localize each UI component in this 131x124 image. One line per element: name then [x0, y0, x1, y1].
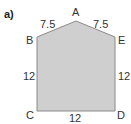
vertex-label-e: E	[118, 34, 125, 46]
side-length-bc: 12	[23, 70, 35, 82]
vertex-label-d: D	[117, 109, 125, 121]
vertex-label-a: A	[72, 6, 80, 18]
part-label: a)	[4, 8, 14, 20]
pentagon-figure: a) A B E C D 7.5 7.5 12 12 12	[0, 0, 131, 124]
side-length-ab: 7.5	[40, 18, 55, 30]
side-length-ae: 7.5	[93, 18, 108, 30]
vertex-label-b: B	[26, 34, 33, 46]
side-length-ed: 12	[118, 70, 130, 82]
vertex-label-c: C	[26, 109, 34, 121]
pentagon-shape	[37, 21, 115, 111]
side-length-cd: 12	[69, 112, 81, 124]
